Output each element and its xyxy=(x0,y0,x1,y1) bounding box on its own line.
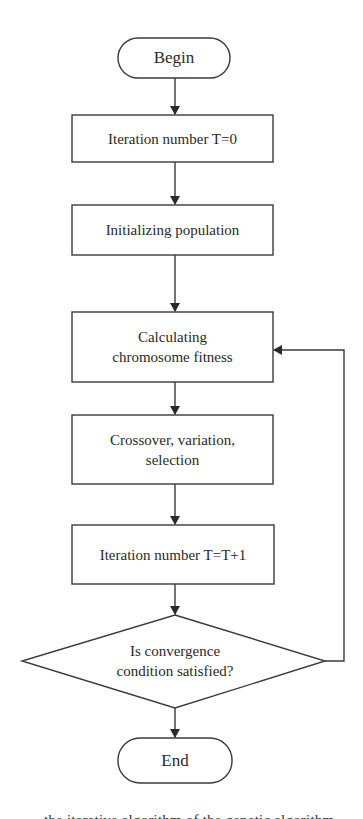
step-calculating-fitness-label: Calculating chromosome fitness xyxy=(72,312,273,382)
end-label: End xyxy=(118,738,232,783)
step-iteration-increment-label: Iteration number T=T+1 xyxy=(72,525,274,584)
step-crossover-label: Crossover, variation, selection xyxy=(72,415,273,484)
step-crossover-line2: selection xyxy=(146,450,199,470)
decision-line2: condition satisfied? xyxy=(116,661,233,681)
step-crossover-line1: Crossover, variation, xyxy=(110,430,235,450)
step-iteration-init-text: Iteration number T=0 xyxy=(108,129,237,149)
begin-label: Begin xyxy=(118,38,230,78)
step-initializing-population-label: Initializing population xyxy=(72,205,273,255)
step-iteration-init-label: Iteration number T=0 xyxy=(72,115,273,162)
step-calculating-fitness-line1: Calculating xyxy=(138,327,207,347)
step-calculating-fitness-line2: chromosome fitness xyxy=(112,347,232,367)
decision-label: Is convergence condition satisfied? xyxy=(60,635,290,687)
feedback-loop-arrow xyxy=(274,350,344,661)
decision-line1: Is convergence xyxy=(130,641,220,661)
figure-caption-clipped: the iterative algorithm of the genetic a… xyxy=(0,810,363,819)
caption-text: the iterative algorithm of the genetic a… xyxy=(44,810,363,819)
begin-text: Begin xyxy=(154,48,195,68)
step-initializing-population-text: Initializing population xyxy=(106,220,240,240)
end-text: End xyxy=(161,751,188,771)
step-iteration-increment-text: Iteration number T=T+1 xyxy=(100,545,247,565)
